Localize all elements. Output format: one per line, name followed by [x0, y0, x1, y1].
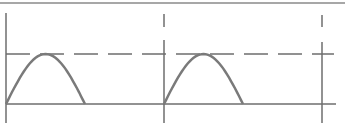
wave-hump-2 — [164, 54, 243, 104]
waveform — [6, 54, 243, 104]
waveform-diagram — [0, 0, 345, 131]
wave-hump-1 — [6, 54, 85, 104]
period-markers — [6, 13, 322, 123]
